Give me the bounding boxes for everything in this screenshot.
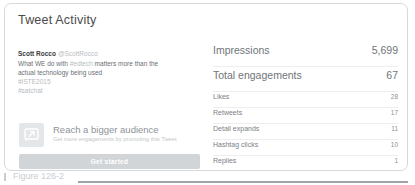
- figure-caption: Figure 126-2: [13, 171, 64, 181]
- metric-row-total-engagements: Total engagements 67: [213, 67, 398, 92]
- metric-label: Hashtag clicks: [213, 141, 258, 148]
- metric-value: 5,699: [372, 44, 398, 56]
- promote-subtitle: Get more engagements by promoting this T…: [53, 136, 177, 142]
- metric-row-replies: Replies 1: [213, 156, 398, 171]
- tweet-body: What WE do with #edtech matters more tha…: [18, 59, 196, 68]
- figure-rule-left: [4, 173, 6, 181]
- metric-label: Likes: [213, 93, 229, 100]
- tweet-body-hashtag[interactable]: #edtech: [70, 60, 93, 67]
- get-started-button[interactable]: Get started: [19, 154, 200, 169]
- tweet-body-part-1: What WE do with: [18, 60, 70, 67]
- metric-row-likes: Likes 28: [213, 92, 398, 108]
- metric-row-impressions: Impressions 5,699: [213, 42, 398, 67]
- screenshot-root: Tweet Activity Scott Rocco@ScottRocco Wh…: [0, 0, 415, 185]
- metric-value: 10: [391, 141, 398, 148]
- metric-label: Impressions: [213, 44, 270, 56]
- metric-row-retweets: Retweets 17: [213, 108, 398, 124]
- tweet-author-name: Scott Rocco: [18, 50, 56, 57]
- metric-value: 67: [386, 69, 398, 81]
- metric-row-detail-expands: Detail expands 11: [213, 124, 398, 140]
- tweet-author-handle[interactable]: @ScottRocco: [58, 50, 98, 57]
- tweet-hashtag-satchat[interactable]: #satchat: [18, 86, 201, 95]
- metrics-list: Impressions 5,699 Total engagements 67 L…: [213, 42, 398, 171]
- metric-label: Detail expands: [213, 125, 259, 132]
- metric-label: Total engagements: [213, 69, 302, 81]
- figure-caption-area: Figure 126-2: [0, 170, 415, 185]
- tweet-body-line-2: actual technology being used: [18, 68, 196, 77]
- promote-callout: Reach a bigger audience Get more engagem…: [18, 121, 201, 151]
- card-title: Tweet Activity: [18, 13, 97, 27]
- metric-value: 11: [391, 125, 398, 132]
- tweet-preview: Scott Rocco@ScottRocco What WE do with #…: [18, 49, 201, 95]
- metric-row-hashtag-clicks: Hashtag clicks 10: [213, 140, 398, 156]
- metric-value: 17: [391, 109, 398, 116]
- tweet-activity-card: Tweet Activity Scott Rocco@ScottRocco Wh…: [4, 3, 408, 171]
- metric-label: Retweets: [213, 109, 242, 116]
- tweet-author-line: Scott Rocco@ScottRocco: [18, 49, 201, 58]
- tweet-body-part-2: matters more than the: [93, 60, 158, 67]
- promote-arrow-icon: [19, 123, 44, 147]
- metric-value: 1: [394, 157, 398, 164]
- tweet-hashtag-iste[interactable]: #ISTE2015: [18, 77, 201, 86]
- metric-value: 28: [391, 93, 398, 100]
- figure-rule: [78, 181, 408, 183]
- metric-label: Replies: [213, 157, 236, 164]
- promote-title: Reach a bigger audience: [53, 124, 159, 135]
